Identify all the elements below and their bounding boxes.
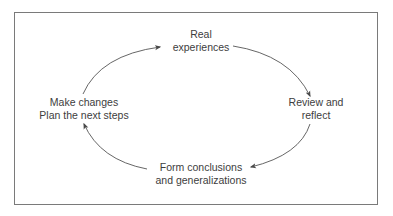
node-line: experiences [166,41,236,54]
node-line: Form conclusions [146,161,256,174]
node-real-experiences: Real experiences [166,28,236,54]
node-line: Plan the next steps [34,109,134,122]
node-line: and generalizations [146,174,256,187]
arrow-left-to-top [83,47,160,94]
arrow-right-to-bottom [251,124,310,167]
node-review-and-reflect: Review and reflect [276,96,356,122]
arrow-bottom-to-left [84,124,147,169]
node-line: Review and [276,96,356,109]
arrow-top-to-right [233,46,310,96]
node-line: reflect [276,109,356,122]
node-form-conclusions: Form conclusions and generalizations [146,161,256,187]
node-line: Make changes [34,96,134,109]
node-line: Real [166,28,236,41]
node-make-changes: Make changes Plan the next steps [34,96,134,122]
